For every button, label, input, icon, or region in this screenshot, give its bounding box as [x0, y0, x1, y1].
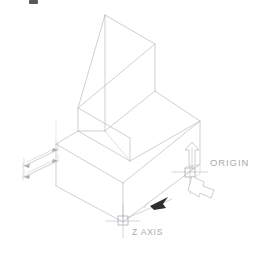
drawing-canvas: ORIGIN Z AXIS	[0, 0, 255, 256]
dim-line-upper2	[27, 149, 54, 162]
origin-down-right-arrow-icon	[188, 176, 214, 198]
edge-ridge-front	[105, 91, 155, 131]
edge-base-bottom-left	[56, 186, 123, 222]
edge-base-top-back-left	[78, 131, 130, 161]
isometric-solid-body	[56, 15, 200, 222]
edge-base-front-top-right	[123, 121, 200, 183]
dimension-group-left	[22, 120, 58, 180]
dim-line-lower2	[27, 160, 54, 173]
origin-label: ORIGIN	[210, 157, 249, 168]
origin-callout-group: ORIGIN	[172, 142, 249, 198]
z-axis-solid-arrowhead	[150, 197, 168, 210]
edge-base-top-right	[155, 91, 200, 121]
z-axis-label: Z AXIS	[132, 227, 163, 237]
edge-base-front-top-left	[56, 144, 123, 183]
isometric-drawing-svg: ORIGIN Z AXIS	[0, 0, 255, 256]
z-axis-callout-group: Z AXIS	[106, 197, 172, 238]
edge-incline-to-base	[78, 108, 130, 138]
edge-apex-right	[105, 15, 155, 44]
edge-apex-left	[78, 15, 105, 108]
edge-base-left-top-link	[56, 131, 78, 144]
edge-base-bottom-right	[123, 164, 200, 222]
edge-incline-diagonal	[78, 44, 155, 108]
